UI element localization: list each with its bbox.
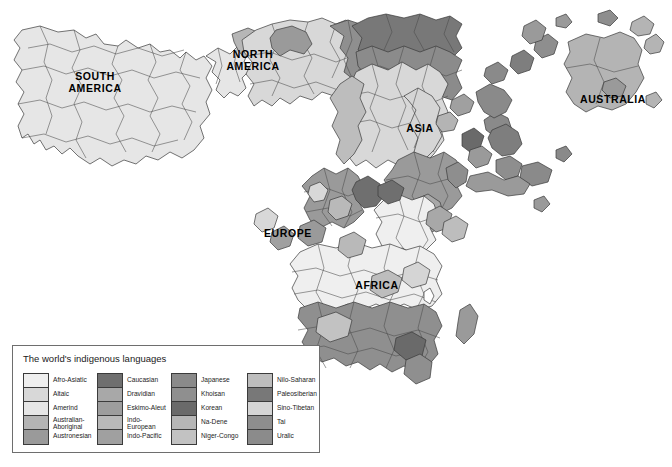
legend-label-khoisan: Khoisan — [201, 387, 247, 401]
legend-label-tai: Tai — [277, 415, 323, 429]
legend-label-stack-3: Nilo-Saharan Paleosiberian Sino-Tibetan … — [277, 373, 323, 443]
legend-label-korean: Korean — [201, 401, 247, 415]
legend-swatch-stack-1 — [97, 373, 123, 445]
legend-swatch-stack-0 — [23, 373, 49, 445]
legend-swatch-stack-2 — [171, 373, 197, 445]
world-language-map-page: .land { stroke:#3a3a3a; stroke-width:0.7… — [0, 0, 672, 467]
legend-label-stack-2: Japanese Khoisan Korean Na-Dene Niger-Co… — [201, 373, 247, 443]
legend-label-paleosiberian: Paleosiberian — [277, 387, 323, 401]
legend-swatch-sino-tibetan — [248, 402, 272, 416]
legend-swatch-na-dene — [172, 416, 196, 430]
legend-label-japanese: Japanese — [201, 373, 247, 387]
legend-swatch-dravidian — [98, 388, 122, 402]
legend-swatch-eskimo-aleut — [98, 402, 122, 416]
legend-swatch-niger-congo — [172, 430, 196, 444]
legend-swatch-afro-asiatic — [24, 374, 48, 388]
legend-label-australian-aboriginal: Australian- Aboriginal — [53, 415, 99, 429]
legend-swatch-khoisan — [172, 388, 196, 402]
map-legend: The world's indigenous languages Afro-As… — [12, 345, 320, 453]
legend-label-dravidian: Dravidian — [127, 387, 173, 401]
legend-swatch-japanese — [172, 374, 196, 388]
legend-label-indo-european: Indo- European — [127, 415, 173, 429]
region-africa-north — [290, 242, 442, 310]
legend-swatch-austronesian — [24, 430, 48, 444]
legend-label-caucasian: Caucasian — [127, 373, 173, 387]
legend-swatch-caucasian — [98, 374, 122, 388]
legend-swatch-australian-aboriginal — [24, 416, 48, 430]
legend-label-eskimo-aleut: Eskimo-Aleut — [127, 401, 173, 415]
legend-label-afro-asiatic: Afro-Asiatic — [53, 373, 99, 387]
legend-label-niger-congo: Niger-Congo — [201, 429, 247, 443]
legend-swatch-amerind — [24, 402, 48, 416]
legend-swatch-indo-pacific — [98, 430, 122, 444]
legend-label-indo-pacific: Indo-Pacific — [127, 429, 173, 443]
legend-label-stack-0: Afro-Asiatic Altaic Amerind Australian- … — [53, 373, 99, 443]
legend-swatch-indo-european — [98, 416, 122, 430]
legend-label-altaic: Altaic — [53, 387, 99, 401]
legend-swatch-nilo-saharan — [248, 374, 272, 388]
legend-label-uralic: Uralic — [277, 429, 323, 443]
legend-swatch-korean — [172, 402, 196, 416]
legend-swatch-uralic — [248, 430, 272, 444]
legend-swatch-tai — [248, 416, 272, 430]
legend-label-austronesian: Austronesian — [53, 429, 99, 443]
legend-label-amerind: Amerind — [53, 401, 99, 415]
legend-label-stack-1: Caucasian Dravidian Eskimo-Aleut Indo- E… — [127, 373, 173, 443]
legend-swatch-paleosiberian — [248, 388, 272, 402]
legend-label-sino-tibetan: Sino-Tibetan — [277, 401, 323, 415]
legend-label-na-dene: Na-Dene — [201, 415, 247, 429]
legend-swatch-stack-3 — [247, 373, 273, 445]
legend-label-nilo-saharan: Nilo-Saharan — [277, 373, 323, 387]
legend-title: The world's indigenous languages — [23, 353, 166, 364]
legend-swatch-altaic — [24, 388, 48, 402]
